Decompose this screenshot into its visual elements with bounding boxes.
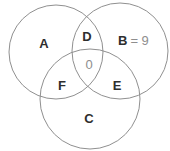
venn-diagram: A D B= 9 0 F E C — [0, 0, 170, 151]
region-label-b-group: B= 9 — [118, 34, 149, 47]
region-label-f: F — [58, 79, 66, 92]
center-region-value: 0 — [85, 58, 92, 71]
region-label-b: B — [118, 33, 127, 48]
circle-set-a — [9, 5, 103, 99]
region-label-e: E — [113, 79, 122, 92]
region-b-value: = 9 — [130, 33, 148, 48]
region-label-a: A — [39, 37, 48, 50]
venn-circles — [0, 0, 170, 151]
region-label-d: D — [82, 30, 91, 43]
region-label-c: C — [84, 112, 93, 125]
